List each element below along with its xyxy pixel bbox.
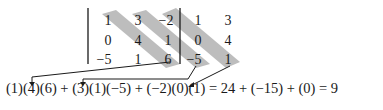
matrix-cell: 1 [158, 33, 178, 49]
matrix-cell: 1 [128, 52, 148, 68]
matrix-cell: 4 [128, 33, 148, 49]
matrix-cell: 1 [188, 13, 208, 29]
matrix-cell: 0 [98, 33, 118, 49]
matrix-cell: 3 [128, 13, 148, 29]
matrix-cell: 1 [98, 13, 118, 29]
matrix-cell: 4 [218, 33, 238, 49]
matrix-cell: −5 [184, 52, 204, 68]
matrix-cell: 3 [218, 13, 238, 29]
matrix-cell: 0 [188, 33, 208, 49]
matrix-cell: 6 [158, 52, 178, 68]
determinant-equation: (1)(4)(6) + (3)(1)(−5) + (−2)(0)(1) = 24… [6, 80, 338, 97]
matrix-cell: 1 [218, 52, 238, 68]
matrix-cell: −2 [156, 13, 176, 29]
matrix-cell: −5 [94, 52, 114, 68]
